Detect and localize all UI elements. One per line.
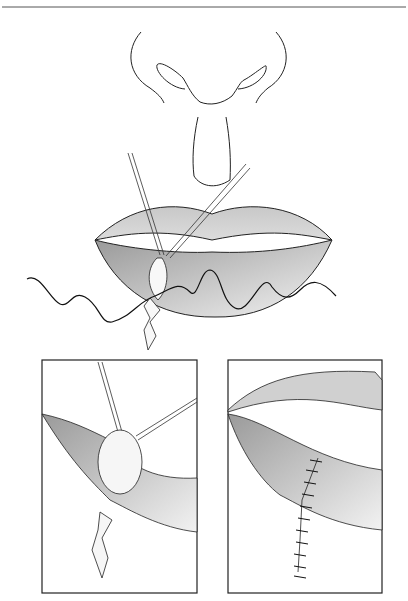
illustration bbox=[0, 0, 408, 601]
inset-left bbox=[42, 360, 197, 593]
nose bbox=[131, 32, 286, 186]
inset-right bbox=[228, 360, 382, 593]
retractor-hooks bbox=[128, 153, 250, 258]
lips bbox=[95, 207, 332, 317]
